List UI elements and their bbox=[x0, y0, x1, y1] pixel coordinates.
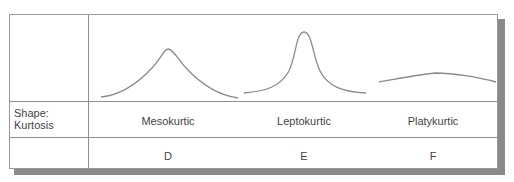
platykurtic-label: Platykurtic bbox=[408, 115, 459, 127]
leptokurtic-letter: E bbox=[300, 150, 307, 162]
leptokurtic-curve bbox=[244, 32, 366, 93]
platykurtic-letter: F bbox=[430, 150, 437, 162]
mesokurtic-label: Mesokurtic bbox=[141, 115, 194, 127]
mesokurtic-letter: D bbox=[164, 150, 172, 162]
row-label-line1: Shape: bbox=[14, 107, 88, 119]
kurtosis-table: Shape: Kurtosis Mesokurtic Leptokurtic P… bbox=[9, 14, 498, 169]
row-label-shape-kurtosis: Shape: Kurtosis bbox=[10, 102, 88, 137]
platykurtic-curve bbox=[379, 73, 496, 82]
mesokurtic-curve bbox=[101, 49, 238, 98]
row-label-line2: Kurtosis bbox=[14, 119, 88, 131]
curves-row bbox=[10, 15, 499, 101]
row-divider-2 bbox=[10, 137, 497, 138]
leptokurtic-label: Leptokurtic bbox=[277, 115, 331, 127]
